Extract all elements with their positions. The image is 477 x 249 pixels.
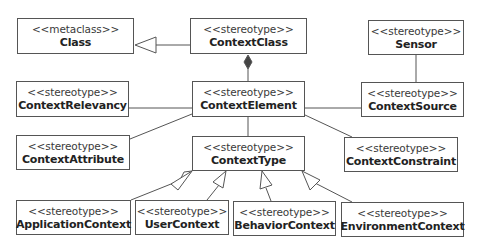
- association-element-attribute: [130, 114, 192, 139]
- class-name: EnvironmentContext: [340, 220, 464, 233]
- class-name: ContextConstraint: [346, 155, 456, 168]
- stereotype-label: <<stereotype>>: [371, 25, 461, 38]
- stereotype-label: <<stereotype>>: [28, 140, 118, 153]
- class-box-context-attribute[interactable]: <<stereotype>> ContextAttribute: [16, 135, 130, 170]
- uml-diagram-canvas: <<metaclass>> Class <<stereotype>> Conte…: [0, 0, 477, 249]
- class-box-context-source[interactable]: <<stereotype>> ContextSource: [361, 82, 464, 117]
- generalization-arrowhead-icon: [135, 37, 156, 53]
- class-name: Sensor: [395, 38, 437, 51]
- composition-diamond-icon: [244, 55, 252, 69]
- generalization-arrowhead-icon: [213, 171, 226, 188]
- class-box-context-element[interactable]: <<stereotype>> ContextElement: [192, 81, 305, 117]
- generalization-user-type: [207, 185, 219, 200]
- stereotype-label: <<stereotype>>: [137, 205, 227, 218]
- stereotype-label: <<stereotype>>: [367, 87, 457, 100]
- class-name: ContextElement: [200, 99, 297, 112]
- class-box-sensor[interactable]: <<stereotype>> Sensor: [368, 20, 464, 55]
- stereotype-label: <<stereotype>>: [203, 23, 293, 36]
- class-box-behavior-context[interactable]: <<stereotype>> BehaviorContext: [233, 201, 336, 236]
- stereotype-label: <<stereotype>>: [357, 207, 447, 220]
- class-box-class[interactable]: <<metaclass>> Class: [17, 18, 134, 54]
- stereotype-label: <<stereotype>>: [203, 86, 293, 99]
- class-box-environment-context[interactable]: <<stereotype>> EnvironmentContext: [341, 202, 464, 237]
- stereotype-label: <<stereotype>>: [27, 86, 117, 99]
- class-name: ApplicationContext: [16, 218, 131, 231]
- stereotype-label: <<stereotype>>: [203, 141, 293, 154]
- class-box-application-context[interactable]: <<stereotype>> ApplicationContext: [16, 200, 131, 235]
- class-box-context-constraint[interactable]: <<stereotype>> ContextConstraint: [344, 137, 458, 172]
- generalization-behavior-type: [266, 188, 271, 201]
- stereotype-label: <<stereotype>>: [28, 205, 118, 218]
- class-name: ContextAttribute: [22, 153, 124, 166]
- class-name: BehaviorContext: [234, 219, 335, 232]
- class-name: UserContext: [145, 218, 220, 231]
- class-box-context-class[interactable]: <<stereotype>> ContextClass: [190, 18, 307, 54]
- stereotype-label: <<stereotype>>: [239, 206, 329, 219]
- generalization-environment-type: [315, 183, 352, 202]
- class-name: ContextClass: [209, 36, 288, 49]
- class-box-context-relevancy[interactable]: <<stereotype>> ContextRelevancy: [16, 81, 129, 117]
- class-box-context-type[interactable]: <<stereotype>> ContextType: [192, 136, 305, 171]
- class-name: Class: [60, 36, 91, 49]
- association-element-constraint: [305, 115, 352, 137]
- class-box-user-context[interactable]: <<stereotype>> UserContext: [135, 200, 229, 235]
- generalization-arrowhead-icon: [260, 171, 272, 189]
- class-name: ContextRelevancy: [18, 99, 127, 112]
- generalization-arrowhead-icon: [302, 171, 320, 190]
- class-name: ContextType: [211, 154, 286, 167]
- stereotype-label: <<metaclass>>: [32, 23, 119, 36]
- class-name: ContextSource: [368, 100, 457, 113]
- stereotype-label: <<stereotype>>: [356, 142, 446, 155]
